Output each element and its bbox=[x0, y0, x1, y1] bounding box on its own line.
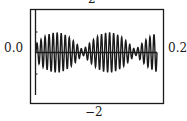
plot-area bbox=[0, 0, 187, 121]
waveform-line bbox=[36, 33, 157, 73]
